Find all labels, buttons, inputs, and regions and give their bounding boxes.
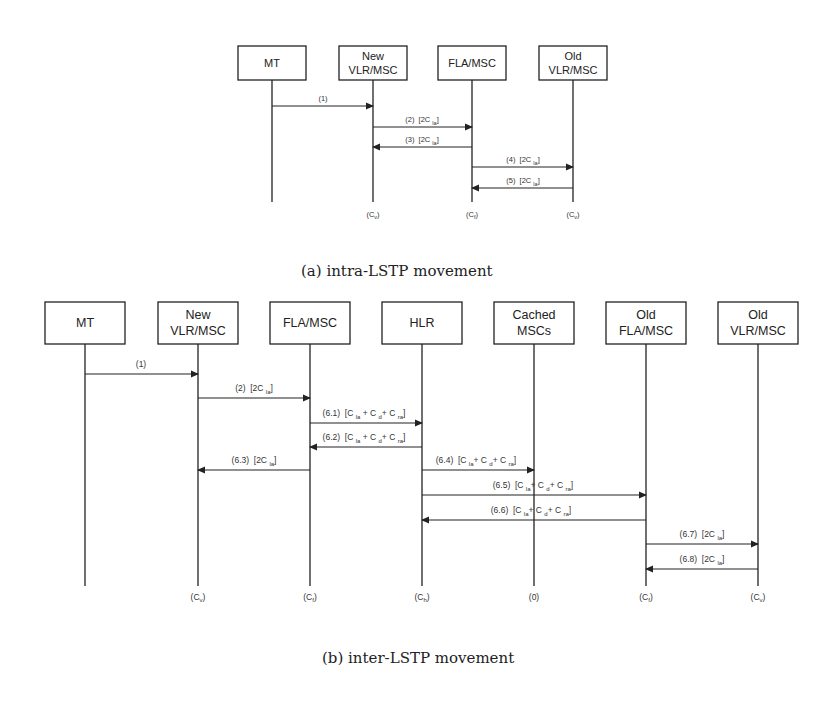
entity-cached-mscs: Cached MSCs [494,302,574,344]
entity-new-vlr-msc: New VLR/MSC [158,302,238,344]
message-b-6-8: (6.8) [2C la] [646,554,758,569]
cost-old-fla: (Cf) [639,592,653,603]
svg-text:VLR/MSC: VLR/MSC [730,324,786,338]
svg-text:VLR/MSC: VLR/MSC [349,64,398,76]
entity-old-fla-msc: Old FLA/MSC [606,302,686,344]
entity-mt: MT [45,302,125,344]
svg-text:Old: Old [748,308,768,322]
message-b-1: (1) [85,359,198,374]
cost-hlr: (Ch) [414,592,429,603]
cost-new-vlr: (Cv) [366,210,380,220]
svg-text:FLA/MSC: FLA/MSC [283,316,337,330]
diagram-b-inter-lstp: MT New VLR/MSC FLA/MSC HLR Cached MSCs O… [45,302,798,603]
svg-text:(6.5) [C la+ C d+ C ra]: (6.5) [C la+ C d+ C ra] [493,480,573,492]
caption-b: (b) inter-LSTP movement [322,649,514,667]
message-b-6-1: (6.1) [C la + C d+ C ra] [310,408,422,423]
cost-cached: (0) [529,592,540,602]
message-b-6-7: (6.7) [2C la] [646,529,758,544]
message-b-6-3: (6.3) [2C la] [198,455,310,470]
svg-text:New: New [185,308,211,322]
svg-text:MT: MT [76,316,94,330]
cost-old-vlr: (Cv) [566,210,580,220]
svg-text:Cached: Cached [512,308,555,322]
svg-text:(6.8) [2C la]: (6.8) [2C la] [680,554,725,566]
svg-text:HLR: HLR [409,316,434,330]
svg-text:(4) [2C la]: (4) [2C la] [506,155,539,166]
diagram-a-intra-lstp: MT New VLR/MSC FLA/MSC Old VLR/MSC (1) (… [238,46,607,220]
svg-text:(6.2) [C la + C d+ C ra]: (6.2) [C la + C d+ C ra] [323,432,406,444]
svg-text:(1): (1) [136,359,147,369]
entity-new-vlr-msc: New VLR/MSC [339,46,407,80]
entity-fla-msc: FLA/MSC [270,302,350,344]
message-b-2: (2) [2C la] [198,383,310,398]
cost-fla: (Cf) [466,210,478,220]
svg-text:VLR/MSC: VLR/MSC [170,324,226,338]
message-a-3: (3) [2C la] [373,135,472,147]
svg-text:(6.3) [2C la]: (6.3) [2C la] [232,455,277,467]
svg-text:(1): (1) [318,94,328,103]
message-a-1: (1) [272,94,373,106]
message-sequence-diagrams: MT New VLR/MSC FLA/MSC Old VLR/MSC (1) (… [0,0,832,708]
cost-old-vlr: (Cv) [751,592,766,603]
svg-text:Old: Old [564,50,581,62]
svg-text:MSCs: MSCs [517,324,551,338]
message-b-6-4: (6.4) [C la+ C d+ C ra] [422,455,534,470]
entity-mt: MT [238,46,306,80]
caption-a: (a) intra-LSTP movement [301,262,493,280]
svg-text:(6.6) [C la+ C d+ C ra]: (6.6) [C la+ C d+ C ra] [491,505,571,517]
entity-fla-msc: FLA/MSC [438,46,506,80]
message-a-2: (2) [2C la] [373,115,472,127]
cost-new-vlr: (Cv) [191,592,206,603]
svg-text:FLA/MSC: FLA/MSC [619,324,673,338]
svg-text:(6.1) [C la + C d+ C ra]: (6.1) [C la + C d+ C ra] [323,408,406,420]
svg-text:VLR/MSC: VLR/MSC [549,64,598,76]
message-a-4: (4) [2C la] [472,155,573,167]
svg-text:MT: MT [264,57,280,69]
svg-text:(2) [2C la]: (2) [2C la] [405,115,438,126]
entity-old-vlr-msc: Old VLR/MSC [539,46,607,80]
message-b-6-2: (6.2) [C la + C d+ C ra] [310,432,422,447]
cost-fla: (Cf) [303,592,317,603]
svg-text:(5) [2C la]: (5) [2C la] [506,176,539,187]
svg-text:(6.4) [C la+ C d+ C ra]: (6.4) [C la+ C d+ C ra] [436,455,516,467]
entity-old-vlr-msc: Old VLR/MSC [718,302,798,344]
svg-text:(6.7) [2C la]: (6.7) [2C la] [680,529,725,541]
svg-text:New: New [362,50,384,62]
entity-hlr: HLR [382,302,462,344]
svg-text:(3) [2C la]: (3) [2C la] [405,135,438,146]
message-a-5: (5) [2C la] [472,176,573,188]
svg-text:(2) [2C la]: (2) [2C la] [235,383,273,395]
svg-text:FLA/MSC: FLA/MSC [448,57,496,69]
svg-text:Old: Old [636,308,656,322]
